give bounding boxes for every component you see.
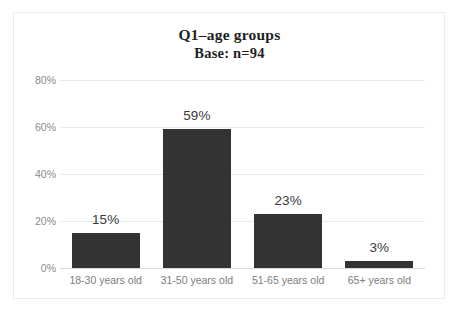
y-axis-tick-label: 80% (12, 74, 56, 86)
chart-subtitle: Base: n=94 (0, 44, 459, 62)
bar[interactable] (254, 214, 322, 268)
x-axis-tick-label: 51-65 years old (242, 274, 334, 286)
title-block: Q1–age groups Base: n=94 (0, 26, 459, 62)
chart-figure: Q1–age groups Base: n=94 0%20%40%60%80% … (0, 0, 459, 315)
bar-value-label: 59% (152, 108, 242, 123)
x-axis: 18-30 years old31-50 years old51-65 year… (60, 274, 425, 294)
bar-value-label: 23% (243, 193, 333, 208)
y-axis: 0%20%40%60%80% (8, 80, 56, 268)
plot-area: 15%59%23%3% (60, 80, 425, 268)
y-axis-tick-label: 20% (12, 215, 56, 227)
gridline (60, 80, 425, 81)
bar-value-label: 15% (61, 212, 151, 227)
x-axis-tick-label: 31-50 years old (151, 274, 243, 286)
bar-value-label: 3% (334, 240, 424, 255)
chart-title: Q1–age groups (0, 26, 459, 44)
gridline (60, 174, 425, 175)
bar[interactable] (72, 233, 140, 268)
gridline (60, 268, 425, 269)
y-axis-tick-label: 40% (12, 168, 56, 180)
x-axis-tick-label: 65+ years old (333, 274, 425, 286)
gridline (60, 127, 425, 128)
y-axis-tick-label: 60% (12, 121, 56, 133)
x-axis-tick-label: 18-30 years old (60, 274, 152, 286)
bar[interactable] (163, 129, 231, 268)
y-axis-tick-label: 0% (12, 262, 56, 274)
bar[interactable] (345, 261, 413, 268)
